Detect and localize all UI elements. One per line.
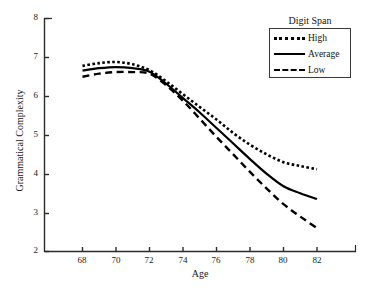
- series-line-high: [83, 62, 318, 169]
- legend-label-high: High: [308, 33, 327, 43]
- y-tick-label-8: 8: [22, 12, 38, 22]
- x-tick-label-82: 82: [305, 255, 329, 265]
- x-tick-label-78: 78: [238, 255, 262, 265]
- y-axis-title: Grammatical Complexity: [14, 81, 25, 201]
- legend-title: Digit Span: [268, 15, 352, 26]
- x-tick-label-74: 74: [171, 255, 195, 265]
- x-tick-label-76: 76: [204, 255, 228, 265]
- x-axis-title: Age: [160, 268, 240, 279]
- x-tick-label-72: 72: [137, 255, 161, 265]
- y-tick-label-3: 3: [22, 207, 38, 217]
- legend-item-high[interactable]: High: [270, 30, 352, 46]
- legend-swatch-dashed-icon: [274, 64, 305, 76]
- x-axis-ticks: [83, 247, 318, 251]
- series-line-low: [83, 72, 318, 228]
- series-line-average: [83, 67, 318, 199]
- legend-label-average: Average: [308, 49, 339, 59]
- x-tick-label-80: 80: [271, 255, 295, 265]
- legend-item-low[interactable]: Low: [270, 62, 352, 78]
- legend-swatch-solid-icon: [274, 48, 305, 60]
- legend-box: High Average Low: [269, 28, 351, 78]
- chart-series-layer: [83, 62, 318, 228]
- legend-label-low: Low: [308, 65, 325, 75]
- x-tick-label-68: 68: [70, 255, 94, 265]
- y-tick-label-2: 2: [22, 245, 38, 255]
- y-tick-label-7: 7: [22, 51, 38, 61]
- x-tick-label-70: 70: [104, 255, 128, 265]
- chart-figure: 8 7 6 5 4 3 2 68 70 72 74 76 78 80 82 Gr…: [0, 0, 373, 291]
- legend-swatch-dotted-icon: [274, 32, 305, 44]
- y-axis-ticks: [45, 19, 49, 252]
- legend-item-average[interactable]: Average: [270, 46, 352, 62]
